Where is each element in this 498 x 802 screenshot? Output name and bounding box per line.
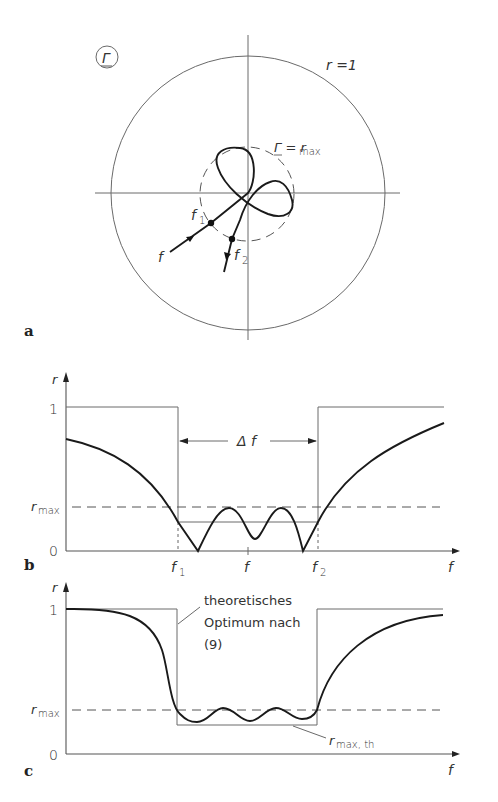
impedance-locus xyxy=(170,148,293,272)
svg-text:1: 1 xyxy=(49,401,58,417)
svg-text:2: 2 xyxy=(320,567,326,578)
c-rmaxth-label: r max, th xyxy=(329,733,374,750)
f2-point xyxy=(229,236,235,242)
c-x-axis-label: f xyxy=(448,762,455,778)
panel-c-chart: r 1 0 r max theoretisches Optimum nach (… xyxy=(24,580,460,780)
c-x-arrow-icon xyxy=(452,751,460,757)
c-annotation-line-2: Optimum nach xyxy=(204,615,300,630)
svg-text:f: f xyxy=(191,207,198,223)
unit-circle-label: r =1 xyxy=(326,57,357,73)
b-f2-label: f 2 xyxy=(312,559,326,578)
b-f1-label: f 1 xyxy=(171,559,185,578)
b-f-center-label: f xyxy=(244,559,251,575)
b-x-arrow-icon xyxy=(452,548,460,554)
c-optimum-leader xyxy=(178,607,200,624)
svg-text:max: max xyxy=(38,505,60,516)
gamma-symbol-icon: Γ xyxy=(96,46,118,68)
svg-text:max: max xyxy=(38,708,60,719)
svg-text:2: 2 xyxy=(242,255,248,266)
b-tolerance-mask xyxy=(66,407,444,522)
svg-text:1: 1 xyxy=(199,215,205,226)
c-annotation-line-1: theoretisches xyxy=(204,593,292,608)
b-y-arrow-icon xyxy=(63,372,69,382)
c-rmax-label: r max xyxy=(31,702,60,719)
svg-text:f: f xyxy=(312,559,319,575)
c-rmaxth-leader xyxy=(293,726,326,738)
svg-text:1: 1 xyxy=(179,567,185,578)
figure-canvas: Γ r =1 Γ = r max f 1 f xyxy=(0,0,498,802)
f1-point xyxy=(208,220,214,226)
panel-label-a: a xyxy=(24,322,34,340)
panel-b-chart: r 1 0 r max Δ f f 1 f f xyxy=(24,372,460,578)
svg-text:0: 0 xyxy=(49,543,58,559)
svg-text:max, th: max, th xyxy=(336,739,374,750)
svg-text:r: r xyxy=(52,372,59,387)
svg-text:Γ: Γ xyxy=(102,50,111,66)
svg-text:r: r xyxy=(31,499,38,514)
panel-a-smith-locus: Γ r =1 Γ = r max f 1 f xyxy=(24,35,400,340)
rmax-circle-label: Γ = r max xyxy=(274,140,321,157)
b-x-axis-label: f xyxy=(448,559,455,575)
c-annotation-line-3: (9) xyxy=(204,637,222,652)
svg-text:r: r xyxy=(329,733,336,748)
panel-label-c: c xyxy=(24,762,33,780)
svg-text:max: max xyxy=(299,146,321,157)
f2-point-label: f 2 xyxy=(234,247,248,266)
svg-text:r: r xyxy=(31,702,38,717)
f-direction-label: f xyxy=(158,249,165,265)
f1-point-label: f 1 xyxy=(191,207,205,226)
svg-text:f: f xyxy=(171,559,178,575)
svg-text:f: f xyxy=(234,247,241,263)
svg-text:1: 1 xyxy=(49,602,58,618)
c-y-arrow-icon xyxy=(63,582,69,592)
svg-text:r: r xyxy=(52,580,59,595)
panel-label-b: b xyxy=(24,556,35,574)
b-rmax-label: r max xyxy=(31,499,60,516)
b-bandwidth-annotation: Δ f xyxy=(179,433,317,449)
svg-text:Δ f: Δ f xyxy=(236,433,258,449)
svg-text:0: 0 xyxy=(49,747,58,763)
